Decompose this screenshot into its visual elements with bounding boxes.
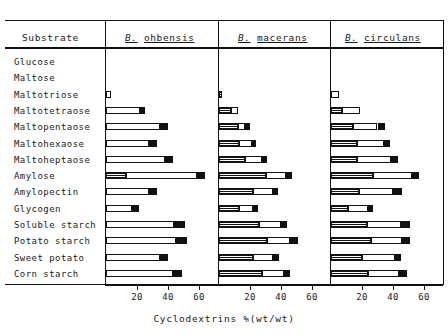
x-axis-tick-label: 40 bbox=[156, 292, 180, 302]
bar-segment-open bbox=[106, 188, 149, 195]
substrate-label: Sweet potato bbox=[14, 253, 84, 263]
table-header-rule bbox=[5, 47, 443, 49]
bar-row bbox=[106, 91, 111, 98]
bar-segment-open bbox=[106, 123, 160, 130]
bar-row bbox=[331, 270, 407, 277]
bar-segment-solid bbox=[252, 140, 257, 147]
bar-segment-open bbox=[342, 107, 361, 114]
bar-segment-solid bbox=[395, 254, 401, 261]
bar-segment-solid bbox=[173, 270, 182, 277]
substrate-label: Amylose bbox=[14, 171, 55, 181]
bar-segment-open bbox=[267, 237, 290, 244]
bar-row bbox=[106, 188, 157, 195]
bar-segment-open bbox=[253, 188, 273, 195]
substrate-label: Maltotetraose bbox=[14, 106, 90, 116]
bar-segment-hatched bbox=[219, 270, 262, 277]
bar-segment-hatched bbox=[219, 237, 267, 244]
bar-segment-solid bbox=[378, 123, 386, 130]
bar-row bbox=[219, 156, 267, 163]
bar-segment-open bbox=[357, 156, 391, 163]
bar-segment-solid bbox=[391, 156, 397, 163]
x-axis-tick-label: 20 bbox=[125, 292, 149, 302]
bar-segment-open bbox=[353, 123, 378, 130]
bar-segment-open bbox=[367, 221, 401, 228]
bar-segment-hatched bbox=[331, 254, 362, 261]
bar-segment-open bbox=[238, 123, 246, 130]
bar-row bbox=[331, 237, 410, 244]
bar-segment-hatched bbox=[331, 188, 359, 195]
bar-row bbox=[219, 205, 258, 212]
bar-segment-solid bbox=[245, 123, 250, 130]
x-axis-label: Cyclodextrins %(wt/wt) bbox=[0, 313, 448, 324]
bar-segment-open bbox=[106, 254, 160, 261]
substrate-label: Maltose bbox=[14, 73, 55, 83]
bar-segment-solid bbox=[290, 237, 298, 244]
bar-segment-solid bbox=[412, 172, 420, 179]
bar-segment-hatched bbox=[331, 221, 367, 228]
cyclodextrin-production-chart: Substrate B. ohbensis B. macerans B. cir… bbox=[0, 0, 448, 335]
x-axis-tick bbox=[312, 286, 313, 290]
species-name-2: circulans bbox=[364, 32, 421, 43]
bar-segment-hatched bbox=[219, 172, 266, 179]
bar-segment-solid bbox=[149, 188, 157, 195]
bar-segment-open bbox=[262, 270, 284, 277]
bar-row bbox=[331, 188, 402, 195]
table-top-rule bbox=[5, 20, 443, 21]
species-genus-1: B. bbox=[238, 32, 251, 43]
bar-segment-solid bbox=[401, 221, 410, 228]
bar-segment-solid bbox=[140, 107, 145, 114]
bar-segment-open bbox=[362, 254, 395, 261]
bar-row bbox=[331, 254, 401, 261]
bar-segment-open bbox=[359, 188, 393, 195]
bar-row bbox=[219, 172, 292, 179]
bar-segment-hatched bbox=[331, 172, 373, 179]
bar-segment-solid bbox=[273, 254, 279, 261]
bar-segment-hatched bbox=[331, 237, 371, 244]
x-axis-tick bbox=[137, 286, 138, 290]
substrate-label: Glycogen bbox=[14, 204, 61, 214]
bar-segment-open bbox=[126, 172, 197, 179]
bar-segment-open bbox=[239, 205, 253, 212]
bar-segment-open bbox=[331, 91, 339, 98]
column-header-species-1: B. macerans bbox=[238, 32, 308, 43]
x-axis-tick bbox=[424, 286, 425, 290]
substrate-label: Maltoheptaose bbox=[14, 155, 90, 165]
bar-row bbox=[331, 221, 410, 228]
bar-segment-hatched bbox=[219, 107, 231, 114]
bar-segment-solid bbox=[284, 270, 290, 277]
bar-row bbox=[219, 140, 256, 147]
bar-segment-solid bbox=[197, 172, 205, 179]
bar-row bbox=[219, 107, 238, 114]
x-axis-tick bbox=[250, 286, 251, 290]
bar-row bbox=[219, 270, 290, 277]
bar-row bbox=[106, 156, 173, 163]
bar-row bbox=[106, 205, 139, 212]
bar-row bbox=[331, 91, 339, 98]
x-axis-tick bbox=[168, 286, 169, 290]
bar-row bbox=[106, 254, 168, 261]
species-genus-2: B. bbox=[345, 32, 358, 43]
column-header-substrate: Substrate bbox=[22, 32, 79, 43]
bar-segment-open bbox=[231, 107, 237, 114]
bar-segment-open bbox=[245, 156, 262, 163]
bar-segment-hatched bbox=[331, 123, 353, 130]
bar-segment-open bbox=[266, 172, 286, 179]
species-name-1: macerans bbox=[257, 32, 308, 43]
species-genus-0: B. bbox=[125, 32, 138, 43]
x-axis-tick bbox=[199, 286, 200, 290]
bar-segment-open bbox=[106, 270, 173, 277]
substrate-label: Maltopentaose bbox=[14, 122, 90, 132]
bar-segment-hatched bbox=[219, 156, 245, 163]
bar-row bbox=[331, 156, 398, 163]
bar-row bbox=[331, 140, 390, 147]
x-axis-tick-label: 20 bbox=[350, 292, 374, 302]
column-divider-1 bbox=[105, 20, 106, 285]
bar-row bbox=[331, 123, 385, 130]
bar-segment-open bbox=[106, 237, 176, 244]
x-axis-tick-label: 60 bbox=[412, 292, 436, 302]
substrate-label: Maltohexaose bbox=[14, 139, 84, 149]
bar-row bbox=[331, 107, 360, 114]
substrate-label: Corn starch bbox=[14, 269, 79, 279]
bar-segment-solid bbox=[253, 205, 258, 212]
bar-segment-hatched bbox=[219, 123, 238, 130]
